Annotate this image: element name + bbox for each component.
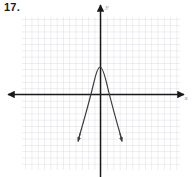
y-axis-label: y [104, 3, 109, 11]
parabola-graph-figure: x y [0, 0, 193, 177]
x-axis-label: x [183, 94, 188, 102]
figure-page: 17. x y [0, 0, 193, 177]
